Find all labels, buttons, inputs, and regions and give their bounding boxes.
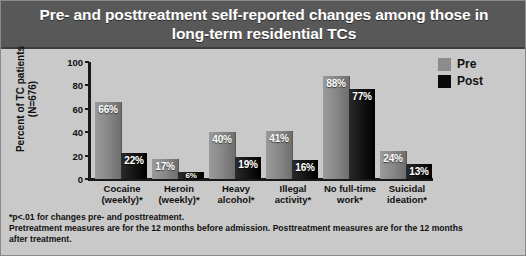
bar-value-label: 13% [406, 166, 432, 177]
chart-figure: Pre- and posttreatment self-reported cha… [0, 0, 526, 256]
y-axis-tick-mark [85, 84, 89, 86]
bar-group: 66%22% [91, 62, 148, 179]
y-axis-tick-mark [85, 61, 89, 63]
bar-group: 40%19% [205, 62, 262, 179]
bar-pre[interactable]: 17% [152, 159, 179, 179]
legend-label: Post [457, 74, 483, 88]
legend-item[interactable]: Post [438, 74, 522, 88]
bar-post[interactable]: 13% [406, 164, 432, 179]
y-axis-tick-mark [85, 108, 89, 110]
bar-value-label: 17% [152, 161, 178, 172]
bar-pre[interactable]: 41% [266, 131, 293, 179]
y-axis-tick-mark [85, 155, 89, 157]
bar-post[interactable]: 22% [121, 153, 147, 179]
bar-pre[interactable]: 88% [323, 76, 350, 179]
bar-post[interactable]: 16% [292, 160, 318, 179]
bar-value-label: 40% [209, 134, 235, 145]
y-axis-tick-mark [85, 178, 89, 180]
bar-value-label: 24% [380, 153, 406, 164]
footnote-line-2: Pretreatment measures are for the 12 mon… [9, 223, 519, 234]
bar-pre[interactable]: 24% [380, 151, 407, 179]
bar-group: 41%16% [262, 62, 319, 179]
page-title: Pre- and posttreatment self-reported cha… [1, 5, 526, 43]
chart-plot-area: Percent of TC patients (N=676) 66%22%17%… [1, 49, 526, 208]
chart-footnote: *p<.01 for changes pre- and posttreatmen… [1, 208, 526, 255]
bar-post[interactable]: 19% [235, 157, 261, 179]
legend-swatch-pre [438, 58, 451, 71]
y-axis-tick-mark [85, 131, 89, 133]
legend-label: Pre [457, 57, 476, 71]
bar-value-label: 66% [95, 104, 121, 115]
legend-swatch-post [438, 75, 451, 88]
x-axis-category-label-line: Suicidal [369, 183, 445, 194]
bars-container: 66%22%17%6%40%19%41%16%88%77%24%13% [89, 62, 431, 179]
bar-value-label: 88% [323, 78, 349, 89]
bar-pre[interactable]: 40% [209, 132, 236, 179]
footnote-line-1: *p<.01 for changes pre- and posttreatmen… [9, 212, 519, 223]
bar-value-label: 77% [349, 91, 375, 102]
bar-group: 17%6% [148, 62, 205, 179]
bar-post[interactable]: 6% [178, 172, 204, 179]
chart-title-band: Pre- and posttreatment self-reported cha… [1, 1, 526, 49]
bar-group: 24%13% [376, 62, 433, 179]
y-axis-title-line1: Percent of TC patients [15, 40, 27, 158]
bar-pre[interactable]: 66% [95, 102, 122, 179]
x-axis-category-label: Suicidalideation* [369, 183, 445, 205]
x-axis-category-label-line: ideation* [369, 194, 445, 205]
bar-value-label: 22% [121, 155, 147, 166]
bar-value-label: 16% [292, 162, 318, 173]
bar-value-label: 19% [235, 159, 261, 170]
y-axis-title: Percent of TC patients (N=676) [15, 40, 39, 158]
legend-item[interactable]: Pre [438, 57, 522, 71]
bar-value-label: 6% [178, 171, 204, 180]
bar-group: 88%77% [319, 62, 376, 179]
footnote-line-3: after treatment. [9, 234, 519, 245]
bar-post[interactable]: 77% [349, 89, 375, 179]
chart-legend: PrePost [438, 57, 522, 91]
y-axis-title-line2: (N=676) [27, 40, 39, 158]
bar-value-label: 41% [266, 133, 292, 144]
